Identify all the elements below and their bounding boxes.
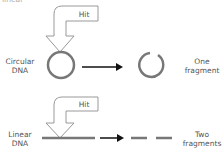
- label-line: DNA: [2, 66, 38, 75]
- label-line: Two: [180, 130, 224, 139]
- two-fragments-label: Two fragments: [180, 130, 224, 148]
- hit-label: Hit: [79, 100, 90, 109]
- label-line: fragment: [180, 66, 224, 75]
- hit-arrow-linear: Hit: [46, 97, 98, 138]
- label-line: Linear: [2, 130, 38, 139]
- process-arrow-2: [100, 134, 124, 142]
- circular-dna-label: Circular DNA: [2, 57, 38, 75]
- label-line: Circular: [2, 57, 38, 66]
- hit-label: Hit: [79, 10, 90, 19]
- open-circle-fragment: [139, 53, 163, 77]
- circular-dna: [48, 52, 74, 78]
- label-line: fragments: [180, 139, 224, 148]
- one-fragment-label: One fragment: [180, 57, 224, 75]
- hit-arrow-circular: Hit: [46, 6, 98, 52]
- label-line: One: [180, 57, 224, 66]
- linear-dna-label: Linear DNA: [2, 130, 38, 148]
- label-line: DNA: [2, 139, 38, 148]
- process-arrow-1: [82, 63, 123, 71]
